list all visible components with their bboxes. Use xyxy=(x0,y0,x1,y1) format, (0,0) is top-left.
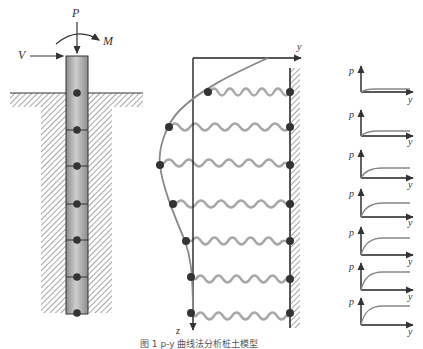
spring-panel: y z xyxy=(156,41,302,336)
axial-load-label: P xyxy=(71,6,80,20)
springs xyxy=(162,89,294,320)
py-curve-5: p y xyxy=(348,227,413,267)
fixed-wall-hatch xyxy=(291,68,300,328)
pile-py-diagram: P M V y z xyxy=(0,0,423,349)
py-curve-3: p y xyxy=(348,149,413,190)
p-label: p xyxy=(348,149,354,160)
y-label: y xyxy=(407,94,413,105)
y-label: y xyxy=(407,179,413,190)
z-axis-label: z xyxy=(175,325,180,336)
p-label: p xyxy=(348,227,354,238)
pile-panel: P M V xyxy=(10,6,143,317)
y-axis-label: y xyxy=(296,41,302,52)
figure-caption: 图 1 p-y 曲线法分析桩土模型 xyxy=(140,338,258,349)
y-label: y xyxy=(407,291,413,302)
y-label: y xyxy=(407,217,413,228)
py-curve-7: p y xyxy=(348,296,413,337)
p-label: p xyxy=(348,261,354,272)
py-curve-1: p y xyxy=(348,65,413,105)
y-label: y xyxy=(407,326,413,337)
moment-label: M xyxy=(102,34,114,48)
y-label: y xyxy=(407,136,413,147)
p-label: p xyxy=(348,296,354,307)
p-label: p xyxy=(348,65,354,76)
py-curves-panel: p y p y p y p y p y xyxy=(348,65,413,337)
y-label: y xyxy=(407,256,413,267)
p-label: p xyxy=(348,109,354,120)
py-curve-6: p y xyxy=(348,261,413,302)
lateral-load-label: V xyxy=(18,48,27,62)
p-label: p xyxy=(348,188,354,199)
py-curve-2: p y xyxy=(348,109,413,147)
py-curve-4: p y xyxy=(348,188,413,228)
